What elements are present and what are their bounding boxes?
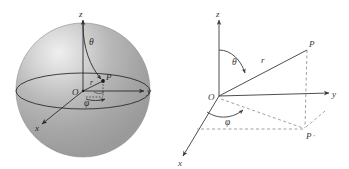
axes-z-axis-label: z <box>215 9 220 19</box>
sphere-origin-dot <box>82 90 84 92</box>
axes-vertical-dashed <box>305 50 307 128</box>
axes-azimuth-angle-label: φ <box>225 117 230 127</box>
axes-projection-point-label: P <box>305 131 312 141</box>
axes-projection-prime-mark: ′ <box>313 133 315 141</box>
sphere-origin-label: O <box>72 87 79 97</box>
axes-x-axis-label: x <box>177 158 182 168</box>
sphere-panel: z y x O P r θ φ <box>0 0 175 169</box>
sphere-point-p-label: P <box>105 72 112 82</box>
spherical-coordinates-figure: z y x O P r θ φ <box>0 0 349 169</box>
axes-pprime-to-y-dashed <box>306 111 325 127</box>
axes-y-axis-label: y <box>331 89 336 99</box>
axes-polar-angle-label: θ <box>232 57 237 67</box>
axes-point-p-label: P <box>308 39 315 49</box>
sphere-polar-angle-label: θ <box>89 37 94 47</box>
axes-panel: z y x O P r θ φ P ′ <box>175 0 349 169</box>
axes-x-axis <box>183 96 219 156</box>
sphere-diagram-svg: z y x O P r θ φ <box>0 0 175 169</box>
axes-origin-label: O <box>208 92 215 102</box>
sphere-azimuth-angle-label: φ <box>84 98 89 108</box>
axes-y-axis <box>219 93 329 96</box>
sphere-x-axis-label: x <box>34 123 39 133</box>
sphere-y-axis-label: y <box>146 86 151 96</box>
axes-radius-label: r <box>261 55 265 65</box>
sphere-point-p-dot <box>101 79 105 83</box>
sphere-z-axis-label: z <box>78 9 83 19</box>
axes-projection-dashed <box>221 99 303 128</box>
axes-diagram-svg: z y x O P r θ φ P ′ <box>175 0 349 169</box>
sphere-radius-label: r <box>90 78 93 87</box>
